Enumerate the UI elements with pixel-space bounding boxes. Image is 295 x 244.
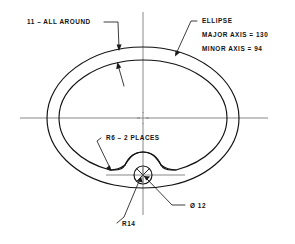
ellipse-note-line-2: MAJOR AXIS = 130 (202, 31, 268, 38)
ellipse-note-leader (176, 21, 197, 54)
fillet-note-leader (97, 138, 110, 168)
fillet-note-label: R6 – 2 PLACES (106, 134, 160, 141)
surface-finish-label: 11 – ALL AROUND (27, 18, 91, 25)
surface-finish-arrowhead-outer (117, 45, 122, 51)
ellipse-note-line-3: MINOR AXIS = 94 (202, 45, 262, 52)
radius-note-label: R14 (122, 220, 135, 227)
surface-finish-leader-outer (104, 22, 119, 48)
hole-note-leader (146, 178, 185, 205)
technical-drawing-canvas: Ellipse profile with keyway notch — dime… (0, 0, 295, 244)
centerlines-group (20, 12, 268, 215)
ellipse-note-arrowhead (175, 50, 180, 56)
surface-finish-leader-group (104, 22, 124, 86)
hole-note-arrowhead (144, 176, 150, 180)
ellipse-note-line-1: ELLIPSE (202, 17, 233, 24)
cad-drawing-svg: Ellipse profile with keyway notch — dime… (0, 0, 295, 244)
hole-note-label: Ø 12 (190, 202, 206, 209)
